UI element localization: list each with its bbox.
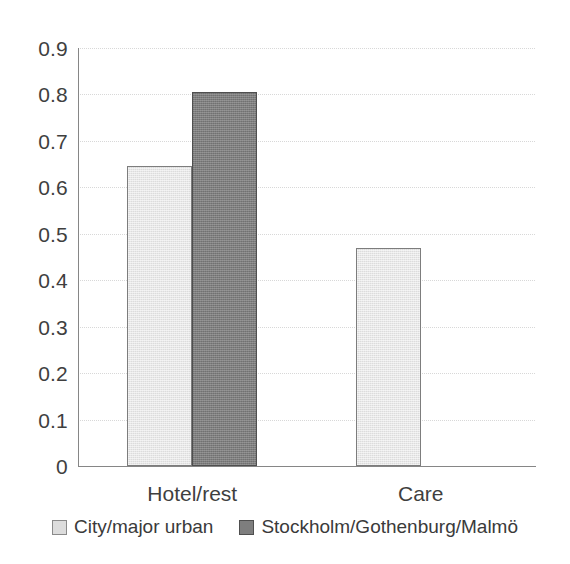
legend-swatch-dark-icon [239, 520, 254, 535]
plot-area [78, 48, 535, 466]
gridline [78, 141, 535, 142]
y-tick-label: 0.4 [6, 270, 68, 291]
legend-item[interactable]: Stockholm/Gothenburg/Malmö [239, 516, 518, 538]
y-axis-line [78, 48, 79, 466]
y-tick-label: 0.5 [6, 224, 68, 245]
y-tick-label: 0.3 [6, 317, 68, 338]
y-tick-label: 0.9 [6, 38, 68, 59]
gridline [78, 48, 535, 49]
y-axis-tick-labels: 0.9 0.8 0.7 0.6 0.5 0.4 0.3 0.2 0.1 0 [0, 0, 68, 564]
legend-label: City/major urban [74, 516, 213, 538]
y-tick-label: 0.7 [6, 131, 68, 152]
bar [192, 92, 257, 466]
y-tick-label: 0.2 [6, 363, 68, 384]
y-tick-label: 0 [6, 456, 68, 477]
x-tick-label: Care [307, 482, 536, 506]
y-tick-label: 0.1 [6, 410, 68, 431]
bar-chart: 0.9 0.8 0.7 0.6 0.5 0.4 0.3 0.2 0.1 0 Ho… [0, 0, 570, 564]
legend-swatch-light-icon [52, 520, 67, 535]
legend-label: Stockholm/Gothenburg/Malmö [261, 516, 518, 538]
x-tick-label: Hotel/rest [78, 482, 307, 506]
bar [356, 248, 421, 466]
legend-item[interactable]: City/major urban [52, 516, 213, 538]
gridline [78, 94, 535, 95]
y-tick-label: 0.6 [6, 177, 68, 198]
legend: City/major urbanStockholm/Gothenburg/Mal… [0, 516, 570, 538]
bar [127, 166, 192, 466]
y-tick-label: 0.8 [6, 84, 68, 105]
x-axis-line [78, 466, 536, 467]
